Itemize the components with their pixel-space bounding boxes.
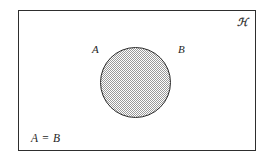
set-label-b: B — [178, 43, 185, 55]
venn-diagram-figure: ℋ A B A = B — [0, 0, 273, 162]
set-label-a: A — [92, 43, 99, 55]
shaded-set-circle — [100, 47, 171, 118]
universal-set-symbol-icon: ℋ — [234, 15, 250, 31]
relation-label-a-equals-b: A = B — [31, 132, 60, 144]
universal-set-rectangle: ℋ A B A = B — [18, 10, 256, 151]
